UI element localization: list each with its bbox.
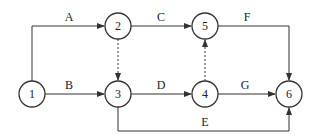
edge-d: D [131,78,191,94]
node-6-label: 6 [286,87,292,101]
edge-f-label: F [244,10,251,24]
node-4-label: 4 [202,87,208,101]
edge-e-label: E [201,115,208,129]
node-1: 1 [19,81,45,107]
network-diagram: A B C D E [0,0,315,140]
edge-b-label: B [65,78,73,92]
edge-a: A [32,10,104,81]
edge-c: C [131,10,191,26]
node-6: 6 [276,81,302,107]
edge-a-label: A [65,10,74,24]
edge-c-label: C [157,10,165,24]
node-5: 5 [192,13,218,39]
node-2-label: 2 [115,19,121,33]
node-3: 3 [105,81,131,107]
edge-g: G [218,78,275,94]
edge-g-label: G [241,78,250,92]
edge-b: B [45,78,104,94]
node-3-label: 3 [115,87,121,101]
edge-f: F [218,10,289,80]
node-2: 2 [105,13,131,39]
edge-e: E [118,107,289,131]
node-5-label: 5 [202,19,208,33]
node-1-label: 1 [29,87,35,101]
edge-d-label: D [157,78,166,92]
node-4: 4 [192,81,218,107]
